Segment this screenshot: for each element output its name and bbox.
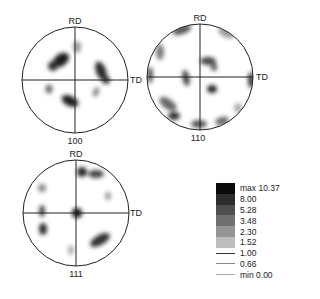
legend-row: 5.28 [216, 205, 286, 216]
legend-line [216, 248, 235, 259]
legend-label: max 10.37 [240, 183, 280, 193]
legend-label: min 0.00 [240, 270, 273, 280]
intensity-contours-100 [46, 41, 111, 109]
legend-label: 1.00 [240, 248, 257, 258]
figure-label-100: 100 [67, 136, 82, 146]
rd-label: RD [70, 149, 83, 159]
legend-label: 2.30 [240, 227, 257, 237]
td-label: TD [256, 72, 268, 82]
legend-row: min 0.00 [216, 269, 286, 280]
intensity-contours-111 [38, 167, 112, 255]
rd-label: RD [69, 16, 82, 26]
pole-figure-111: RD TD 111 [23, 149, 142, 279]
legend-swatch [216, 226, 235, 237]
legend-line [216, 259, 235, 270]
td-label: TD [130, 208, 142, 218]
legend-row: 1.52 [216, 237, 286, 248]
legend-label: 8.00 [240, 194, 257, 204]
legend-swatch [216, 194, 235, 205]
legend-label: 3.48 [240, 216, 257, 226]
legend-row: 2.30 [216, 226, 286, 237]
legend-label: 5.28 [240, 205, 257, 215]
rd-label: RD [194, 13, 207, 23]
legend-swatch [216, 215, 235, 226]
figure-label-111: 111 [69, 269, 83, 279]
legend-swatch [216, 237, 235, 248]
legend-line [216, 269, 235, 280]
legend-row: 1.00 [216, 248, 286, 259]
legend-swatch [216, 183, 235, 194]
legend-row: 3.48 [216, 215, 286, 226]
legend-swatch [216, 205, 235, 216]
legend-label: 1.52 [240, 237, 257, 247]
td-label: TD [130, 75, 142, 85]
legend-row: max 10.37 [216, 183, 286, 194]
intensity-legend: max 10.37 8.00 5.28 3.48 2.30 1.52 1.00 … [216, 183, 286, 280]
legend-label: 0.66 [240, 259, 257, 269]
figure-label-110: 110 [191, 133, 205, 143]
pole-figure-110: RD TD 110 [147, 13, 268, 143]
legend-row: 8.00 [216, 194, 286, 205]
pole-figure-100: RD TD 100 [22, 16, 142, 146]
legend-row: 0.66 [216, 259, 286, 270]
